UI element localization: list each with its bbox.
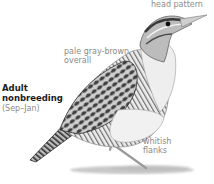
season-range: (Sep–Jan): [2, 104, 40, 113]
overall-color-label-line1: pale gray-brown: [64, 47, 129, 56]
plumage-title: Adult nonbreeding: [2, 83, 63, 103]
bird-bill: [180, 15, 207, 27]
bird-eye: [166, 22, 171, 27]
overall-color-label-line2: overall: [64, 56, 129, 65]
flanks-label-line2: flanks: [143, 146, 171, 155]
flanks-label: whitish flanks: [143, 137, 171, 155]
overall-color-label: pale gray-brown overall: [64, 47, 129, 65]
ground-shadow: [70, 165, 194, 174]
flanks-label-line1: whitish: [143, 137, 171, 146]
head-pattern-label: head pattern: [151, 0, 203, 9]
plumage-title-line1: Adult: [2, 83, 63, 93]
plumage-title-line2: nonbreeding: [2, 93, 63, 103]
